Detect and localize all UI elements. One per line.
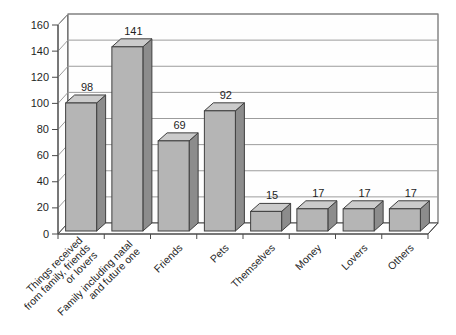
bar-front-face <box>343 209 374 231</box>
bar-value-label: 92 <box>220 89 232 101</box>
bar-value-label: 17 <box>405 187 417 199</box>
bar-side-face <box>235 103 244 231</box>
bar-value-label: 141 <box>124 25 142 37</box>
bar-things-received-from-family-friends-or-lovers: 98 <box>66 81 106 231</box>
category-label: Money <box>292 241 323 272</box>
y-tick-label: 80 <box>37 123 49 135</box>
bar-value-label: 17 <box>312 187 324 199</box>
y-tick-label: 100 <box>31 97 49 109</box>
bar-side-face <box>97 95 106 231</box>
y-tick-label: 120 <box>31 71 49 83</box>
bar-side-face <box>189 133 198 231</box>
y-tick-label: 60 <box>37 149 49 161</box>
x-axis-ticks <box>58 234 428 239</box>
y-tick-label: 20 <box>37 201 49 213</box>
bar-chart-3d: 02040608010012014016098141699215171717Th… <box>0 0 456 335</box>
bar-front-face <box>389 209 420 231</box>
bar-front-face <box>251 211 282 231</box>
bar-value-label: 17 <box>359 187 371 199</box>
category-label: Friends <box>151 241 184 274</box>
category-label: Lovers <box>339 241 370 272</box>
category-label: Others <box>385 241 416 272</box>
bar-pets: 92 <box>204 89 244 231</box>
y-tick-label: 140 <box>31 45 49 57</box>
chart-figure: 02040608010012014016098141699215171717Th… <box>0 0 456 335</box>
bar-family-including-natal-and-future-one: 141 <box>112 25 152 231</box>
y-tick-label: 0 <box>43 228 49 240</box>
bar-front-face <box>66 103 97 231</box>
bar-front-face <box>297 209 328 231</box>
y-tick-label: 160 <box>31 19 49 31</box>
y-axis-ticks: 020406080100120140160 <box>31 19 58 240</box>
y-tick-label: 40 <box>37 175 49 187</box>
bar-front-face <box>204 111 235 231</box>
bar-value-label: 15 <box>266 189 278 201</box>
bar-front-face <box>158 141 189 231</box>
category-labels: Things receivedfrom family, friendsor lo… <box>14 234 416 325</box>
category-label: Pets <box>207 241 230 264</box>
bar-friends: 69 <box>158 119 198 231</box>
bar-value-label: 69 <box>174 119 186 131</box>
bar-value-label: 98 <box>81 81 93 93</box>
bar-front-face <box>112 47 143 231</box>
bar-side-face <box>143 39 152 231</box>
category-label: Themselves <box>228 241 277 290</box>
